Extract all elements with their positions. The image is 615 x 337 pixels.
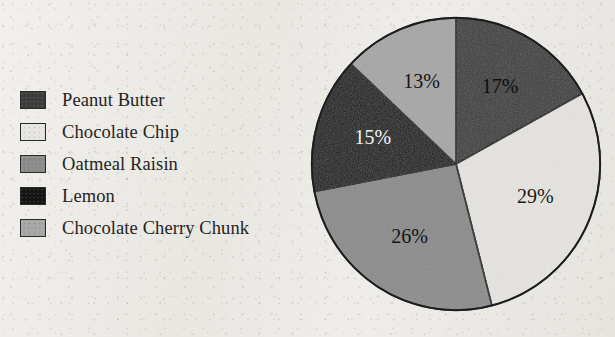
legend-item-lemon: Lemon — [20, 180, 320, 212]
pie-label-oatmeal-raisin: 26% — [391, 225, 428, 247]
pie-slice-group — [312, 18, 600, 310]
legend-item-chocolate-cherry-chunk: Chocolate Cherry Chunk — [20, 212, 320, 244]
pie-label-chocolate-cherry-chunk: 13% — [403, 70, 440, 92]
legend-swatch-peanut-butter — [20, 91, 46, 109]
pie-label-peanut-butter: 17% — [482, 75, 519, 97]
legend-swatch-chocolate-chip — [20, 123, 46, 141]
pie-label-lemon: 15% — [355, 126, 392, 148]
legend-swatch-oatmeal-raisin — [20, 155, 46, 173]
legend-item-peanut-butter: Peanut Butter — [20, 84, 320, 116]
legend-label-chocolate-chip: Chocolate Chip — [62, 122, 179, 143]
legend-swatch-lemon — [20, 187, 46, 205]
legend-label-chocolate-cherry-chunk: Chocolate Cherry Chunk — [62, 218, 249, 239]
pie-chart-svg: 17%29%26%15%13% — [310, 16, 602, 312]
legend-item-oatmeal-raisin: Oatmeal Raisin — [20, 148, 320, 180]
legend-item-chocolate-chip: Chocolate Chip — [20, 116, 320, 148]
legend-label-oatmeal-raisin: Oatmeal Raisin — [62, 154, 178, 175]
legend-swatch-chocolate-cherry-chunk — [20, 219, 46, 237]
pie-chart: 17%29%26%15%13% — [310, 16, 602, 312]
chart-legend: Peanut Butter Chocolate Chip Oatmeal Rai… — [20, 84, 320, 244]
legend-label-peanut-butter: Peanut Butter — [62, 90, 165, 111]
pie-label-chocolate-chip: 29% — [517, 185, 554, 207]
legend-label-lemon: Lemon — [62, 186, 115, 207]
